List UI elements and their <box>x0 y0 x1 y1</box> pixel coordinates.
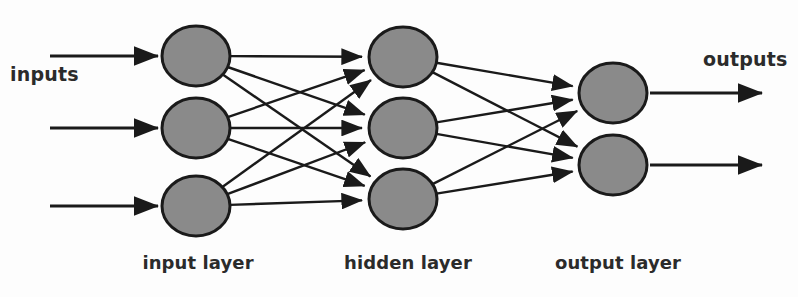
connection-i2-h1 <box>228 70 365 117</box>
connection-i1-h1 <box>230 56 362 57</box>
neuron-hidden-2[interactable] <box>369 98 437 158</box>
neuron-input-2[interactable] <box>162 98 230 158</box>
inputs-label: inputs <box>10 63 79 85</box>
neuron-input-3[interactable] <box>162 176 230 236</box>
connection-h1-o1 <box>436 63 572 86</box>
neuron-output-2[interactable] <box>579 135 647 195</box>
neuron-output-1[interactable] <box>579 63 647 123</box>
connection-h2-o1 <box>436 100 572 123</box>
connection-i3-h1 <box>222 80 371 187</box>
neuron-input-1[interactable] <box>162 26 230 86</box>
hidden-layer-caption: hidden layer <box>318 252 498 273</box>
connection-h2-o2 <box>436 134 572 158</box>
connection-i2-h3 <box>228 139 365 186</box>
neuron-hidden-1[interactable] <box>369 27 437 87</box>
connection-h3-o2 <box>436 172 572 194</box>
input-layer-caption: input layer <box>108 252 288 273</box>
outputs-label: outputs <box>703 48 788 70</box>
output-layer-caption: output layer <box>528 252 708 273</box>
connection-i3-h3 <box>230 200 362 204</box>
neural-network-diagram: inputs outputs input layer hidden layer … <box>0 0 798 297</box>
neuron-hidden-3[interactable] <box>369 169 437 229</box>
